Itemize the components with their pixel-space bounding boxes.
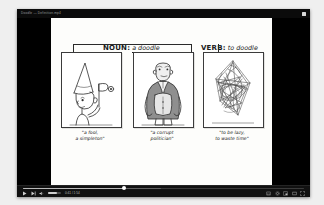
video-player-window: Doodle — Definition.mp4 NOUN:a doodle VE… [17,9,310,197]
picture-in-picture-icon[interactable] [283,191,288,196]
caption-scribble: "to be lazy, to waste time" [197,130,267,142]
sketch-paper: NOUN:a doodle VERB:to doodle [51,18,272,186]
screen: Doodle — Definition.mp4 NOUN:a doodle VE… [0,0,324,205]
fullscreen-icon[interactable] [300,191,305,196]
volume-icon[interactable] [39,191,44,196]
doodle-panel-fool [61,52,122,128]
right-controls [266,191,305,196]
restore-window-icon[interactable] [302,12,306,16]
doodle-panel-scribble [203,52,264,128]
progress-buffered [124,188,161,190]
caption-fool: "a fool, a simpleton" [55,130,125,142]
caption-fool-line2: a simpleton" [55,136,125,142]
tangled-scribble-doodle-icon [204,53,263,127]
player-control-bar: 0:41 / 1:54 [17,185,310,197]
timecode: 0:41 / 1:54 [65,191,80,196]
progress-scrubber[interactable] [23,188,304,190]
play-icon[interactable] [22,191,27,196]
caption-scribble-line2: to waste time" [197,136,267,142]
stout-politician-in-suit-icon [134,53,193,127]
window-titlebar[interactable]: Doodle — Definition.mp4 [17,9,310,18]
progress-handle[interactable] [122,186,126,190]
video-stage[interactable]: NOUN:a doodle VERB:to doodle [17,18,310,186]
settings-gear-icon[interactable] [275,191,280,196]
progress-played [23,188,124,190]
fool-with-dunce-cap-and-flag-icon [62,53,121,127]
next-track-icon[interactable] [31,191,36,196]
caption-politician-line2: politician" [127,136,197,142]
volume-slider[interactable] [48,192,61,193]
doodle-panel-politician [133,52,194,128]
caption-politician: "a corrupt politician" [127,130,197,142]
video-frame: NOUN:a doodle VERB:to doodle [51,18,272,186]
theater-mode-icon[interactable] [292,191,297,196]
verb-label: VERB: [201,44,226,52]
left-controls: 0:41 / 1:54 [22,191,80,196]
subtitles-icon[interactable] [266,191,271,196]
window-title: Doodle — Definition.mp4 [21,10,61,17]
